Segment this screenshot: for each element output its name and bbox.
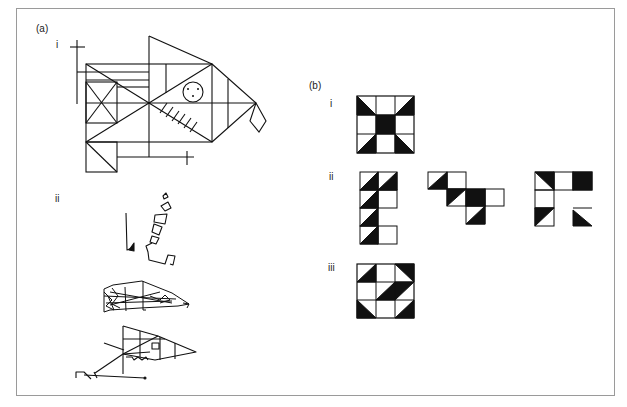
block-design-i bbox=[357, 96, 414, 153]
copy-cluttered bbox=[104, 281, 189, 312]
block-design-iii bbox=[357, 264, 414, 318]
figure-drawings bbox=[0, 0, 627, 407]
circle-dots bbox=[187, 88, 199, 97]
block-design-ii-attempt-3 bbox=[535, 172, 592, 226]
copy-fragmented bbox=[126, 193, 175, 265]
block-design-ii-attempt-2 bbox=[428, 172, 504, 224]
copy-simplified bbox=[76, 326, 196, 379]
block-design-ii-attempt-1 bbox=[360, 172, 397, 244]
rey-complex-figure bbox=[70, 36, 266, 172]
